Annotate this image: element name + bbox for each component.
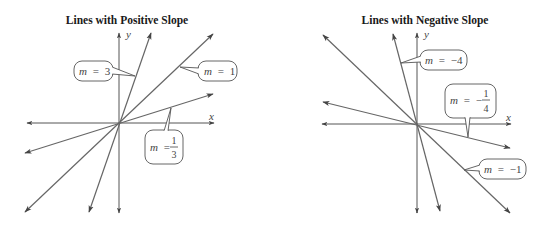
label-slope-1: m = 1 xyxy=(180,61,237,81)
label-slope-neg-one-quarter: m = − 1 4 xyxy=(445,84,496,137)
label-slope-3: m = 3 xyxy=(74,61,135,81)
slope-diagrams: Lines with Positive Slope y x m = 3 xyxy=(0,0,551,232)
panel-title: Lines with Negative Slope xyxy=(362,14,489,27)
svg-text:m = 1: m = 1 xyxy=(204,65,235,77)
panel-title: Lines with Positive Slope xyxy=(66,14,188,27)
label-slope-neg-1: m = −1 xyxy=(464,159,526,179)
svg-text:1: 1 xyxy=(484,88,489,99)
svg-text:m = −4: m = −4 xyxy=(425,54,463,66)
svg-text:m = −: m = − xyxy=(450,94,482,106)
x-axis-label: x xyxy=(505,111,511,123)
label-slope-neg-4: m = −4 xyxy=(401,50,467,70)
svg-text:3: 3 xyxy=(172,149,177,160)
negative-slope-panel: Lines with Negative Slope y x m = −4 xyxy=(322,14,526,213)
svg-text:m = 3: m = 3 xyxy=(79,65,111,77)
svg-text:1: 1 xyxy=(172,135,177,146)
label-slope-one-third: m = 1 3 xyxy=(145,108,183,164)
x-axis-label: x xyxy=(208,110,214,122)
y-axis-label: y xyxy=(423,28,429,40)
svg-text:m =: m = xyxy=(150,141,170,153)
svg-text:m = −1: m = −1 xyxy=(484,163,521,175)
positive-slope-panel: Lines with Positive Slope y x m = 3 xyxy=(25,14,237,213)
y-axis-label: y xyxy=(125,28,131,40)
svg-text:4: 4 xyxy=(484,103,489,114)
